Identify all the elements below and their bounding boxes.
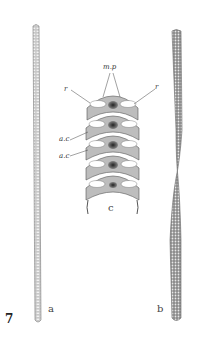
figure-number: 7 [5, 313, 13, 325]
label-ac-1: a.c [59, 136, 69, 143]
filament-a [33, 25, 41, 323]
segment-structure-c [70, 73, 155, 214]
label-mp: m.p [103, 64, 116, 71]
figure-illustration [0, 0, 197, 337]
panel-label-c: c [108, 203, 114, 213]
panel-label-a: a [48, 304, 54, 314]
label-r-left: r [64, 86, 67, 93]
filament-b [170, 30, 182, 321]
panel-label-b: b [157, 304, 163, 314]
label-r-right: r [155, 84, 158, 91]
label-ac-2: a.c [59, 153, 69, 160]
